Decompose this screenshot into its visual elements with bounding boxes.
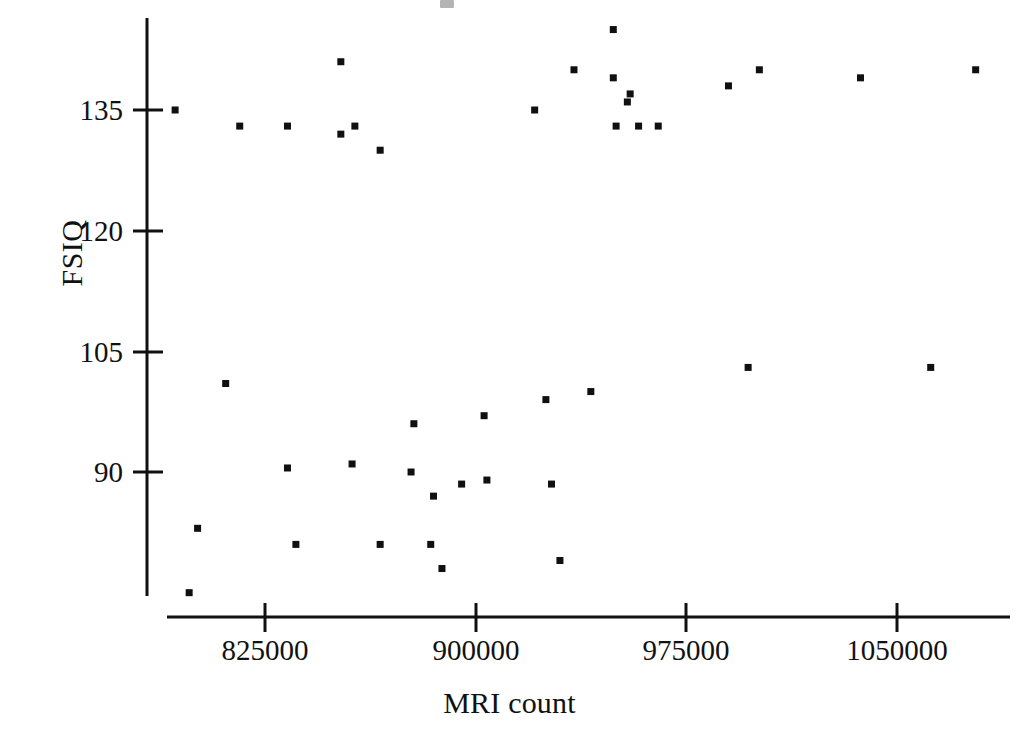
data-point (570, 66, 577, 73)
data-point-group (172, 26, 980, 596)
data-point (857, 74, 864, 81)
data-point (745, 364, 752, 371)
x-tick-label-825000: 825000 (155, 636, 375, 665)
data-point (430, 493, 437, 500)
x-tick-label-900000: 900000 (366, 636, 586, 665)
data-point (624, 98, 631, 105)
plot-canvas (0, 0, 1019, 739)
axis-lines (147, 18, 1010, 617)
data-point (756, 66, 763, 73)
y-tick-label-90: 90 (48, 458, 123, 487)
data-point (613, 123, 620, 130)
data-point (531, 107, 538, 114)
data-point (458, 481, 465, 488)
data-point (337, 131, 344, 138)
data-point (284, 464, 291, 471)
data-point (927, 364, 934, 371)
data-point (481, 412, 488, 419)
data-point (292, 541, 299, 548)
data-point (408, 469, 415, 476)
data-point (548, 481, 555, 488)
data-point (236, 123, 243, 130)
x-axis-title: MRI count (0, 686, 1019, 720)
data-point (186, 589, 193, 596)
y-axis-title: FSIQ (55, 193, 89, 313)
data-point (655, 123, 662, 130)
data-point (410, 420, 417, 427)
data-point (377, 541, 384, 548)
data-point (972, 66, 979, 73)
data-point (542, 396, 549, 403)
data-point (222, 380, 229, 387)
data-point (284, 123, 291, 130)
data-point (725, 82, 732, 89)
x-tick-label-975000: 975000 (576, 636, 796, 665)
data-point (627, 90, 634, 97)
data-point (483, 477, 490, 484)
scatter-plot-figure: 135 120 105 90 825000 900000 975000 1050… (0, 0, 1019, 739)
data-point (438, 565, 445, 572)
data-point (377, 147, 384, 154)
data-point (556, 557, 563, 564)
data-point (351, 123, 358, 130)
data-point (635, 123, 642, 130)
data-point (427, 541, 434, 548)
data-point (194, 525, 201, 532)
y-tick-label-135: 135 (48, 96, 123, 125)
y-tick-label-105: 105 (48, 338, 123, 367)
data-point (172, 107, 179, 114)
data-point (610, 74, 617, 81)
x-tick-label-1050000: 1050000 (787, 636, 1007, 665)
data-point (337, 58, 344, 65)
data-point (610, 26, 617, 33)
data-point (587, 388, 594, 395)
data-point (349, 460, 356, 467)
